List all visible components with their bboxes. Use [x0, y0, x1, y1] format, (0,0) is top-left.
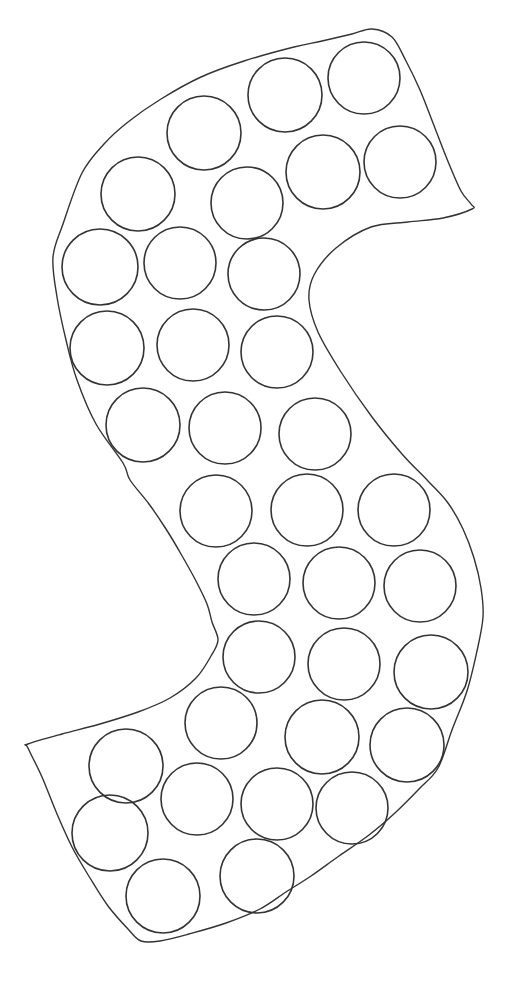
letter-s-outline	[25, 29, 483, 942]
letter-s-dot-worksheet	[0, 0, 518, 992]
worksheet-page	[0, 0, 518, 992]
